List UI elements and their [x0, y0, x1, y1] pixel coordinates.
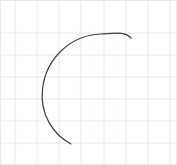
- plot-background: [1, 1, 177, 165]
- arc-plot-svg: [1, 1, 177, 165]
- plot-canvas: [0, 0, 177, 165]
